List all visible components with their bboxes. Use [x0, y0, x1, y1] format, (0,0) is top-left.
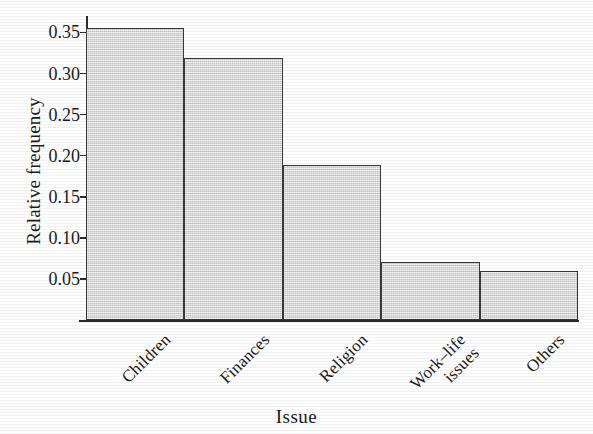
y-axis-tick-label: 0.30	[28, 65, 80, 83]
bar	[480, 271, 578, 320]
y-axis-tick-label-wrap: 0.20	[18, 156, 80, 157]
y-axis-tick-label: 0.35	[28, 23, 80, 41]
y-axis-title: Relative frequency	[23, 51, 45, 291]
bar-chart-figure: Relative frequency 0.050.100.150.200.250…	[0, 0, 593, 434]
y-axis-tick-label: 0.20	[28, 147, 80, 165]
y-axis-tick-label-wrap: 0.10	[18, 238, 80, 239]
y-axis-tick-label: 0.05	[28, 270, 80, 288]
y-axis-tick-label: 0.25	[28, 106, 80, 124]
bar	[86, 28, 184, 320]
y-axis-tick-label-wrap: 0.05	[18, 279, 80, 280]
bar	[381, 262, 479, 320]
bar	[184, 58, 282, 320]
y-axis-tick-label-wrap: 0.25	[18, 115, 80, 116]
y-axis-tick-label-wrap: 0.30	[18, 74, 80, 75]
bar	[283, 165, 381, 320]
y-axis-tick-label: 0.10	[28, 229, 80, 247]
y-axis-tick-label-wrap: 0.35	[18, 32, 80, 33]
x-axis-title: Issue	[0, 406, 593, 428]
y-axis-tick-label-wrap: 0.15	[18, 197, 80, 198]
y-axis-tick-label: 0.15	[28, 188, 80, 206]
x-axis-line	[79, 320, 579, 322]
